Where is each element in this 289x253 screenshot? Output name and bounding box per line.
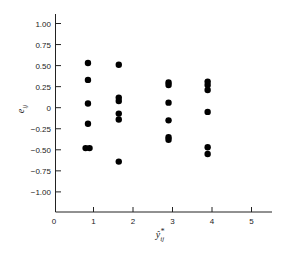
x-tick-label: 1 — [91, 217, 96, 226]
data-point — [165, 136, 171, 142]
data-point — [116, 62, 122, 68]
data-point — [116, 116, 122, 122]
x-tick-label: 3 — [170, 217, 175, 226]
data-point — [165, 99, 171, 105]
x-axis-label: ŷ*ij — [155, 227, 164, 243]
axes — [56, 14, 273, 212]
data-point — [204, 109, 210, 115]
residual-scatter-plot: 1.000.750.500.250−0.25−0.50−0.75−1.00 01… — [0, 0, 289, 253]
data-point — [204, 87, 210, 93]
data-point — [85, 120, 91, 126]
data-point — [116, 110, 122, 116]
y-tick-label: −1.00 — [31, 188, 52, 197]
data-point — [85, 77, 91, 83]
data-point — [86, 145, 92, 151]
x-tick-label: 0 — [52, 217, 57, 226]
data-point — [116, 158, 122, 164]
y-tick-label: −0.25 — [31, 125, 52, 134]
data-point — [85, 60, 91, 66]
x-ticks: 012345 — [52, 207, 255, 226]
y-ticks: 1.000.750.500.250−0.25−0.50−0.75−1.00 — [31, 20, 61, 197]
y-tick-label: 0.50 — [35, 62, 51, 71]
data-point — [85, 100, 91, 106]
y-axis-label: eij — [15, 105, 29, 113]
x-tick-label: 4 — [210, 217, 215, 226]
y-tick-label: 0.75 — [35, 41, 51, 50]
y-tick-label: 0.25 — [35, 83, 51, 92]
data-point — [204, 144, 210, 150]
y-tick-label: −0.50 — [31, 146, 52, 155]
y-tick-label: 1.00 — [35, 20, 51, 29]
y-tick-label: −0.75 — [31, 167, 52, 176]
data-point — [165, 82, 171, 88]
data-points — [82, 60, 210, 165]
y-tick-label: 0 — [47, 104, 52, 113]
data-point — [116, 98, 122, 104]
data-point — [204, 151, 210, 157]
x-tick-label: 2 — [131, 217, 136, 226]
x-tick-label: 5 — [249, 217, 254, 226]
data-point — [165, 117, 171, 123]
